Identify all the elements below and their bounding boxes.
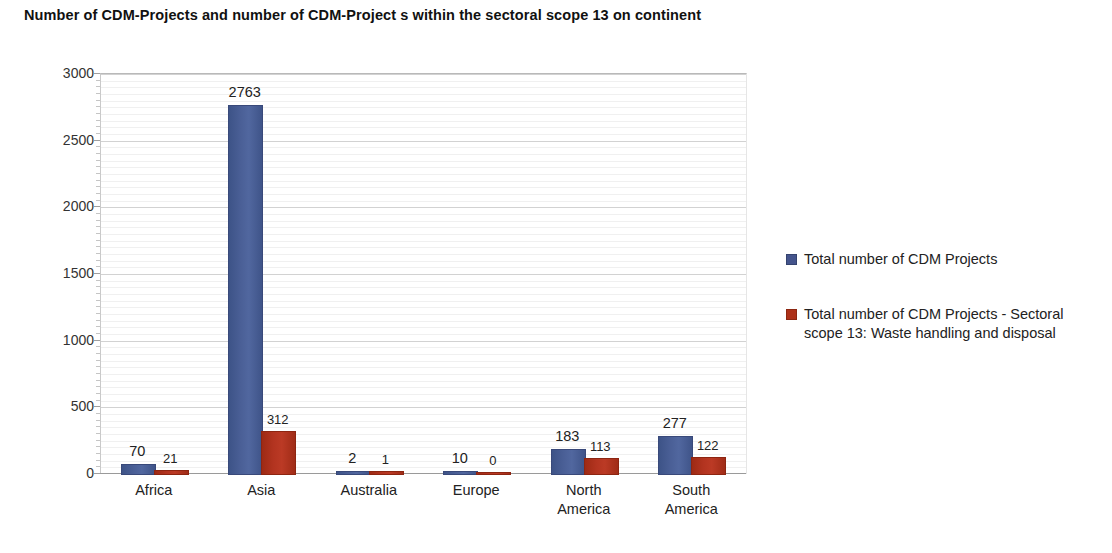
y-tick-mark-major bbox=[94, 473, 100, 474]
gridline-minor bbox=[101, 301, 746, 302]
data-label-south-america-series-1: 277 bbox=[650, 415, 699, 431]
gridline-minor bbox=[101, 241, 746, 242]
data-label-africa-series-2: 21 bbox=[146, 451, 195, 466]
gridline-minor bbox=[101, 127, 746, 128]
y-tick-mark-minor bbox=[96, 440, 100, 441]
gridline-minor bbox=[101, 174, 746, 175]
y-tick-mark-major bbox=[94, 73, 100, 74]
gridline-minor bbox=[101, 447, 746, 448]
gridline-minor bbox=[101, 214, 746, 215]
gridline-minor bbox=[101, 267, 746, 268]
y-tick-mark-minor bbox=[96, 346, 100, 347]
gridline-minor bbox=[101, 107, 746, 108]
y-tick-mark-minor bbox=[96, 360, 100, 361]
y-tick-mark-minor bbox=[96, 400, 100, 401]
x-axis-tick-label: SouthAmerica bbox=[638, 481, 746, 519]
y-tick-mark-minor bbox=[96, 426, 100, 427]
y-tick-mark-minor bbox=[96, 160, 100, 161]
y-tick-mark-minor bbox=[96, 280, 100, 281]
legend-item-series-1[interactable]: Total number of CDM Projects bbox=[786, 250, 1096, 269]
y-tick-mark-minor bbox=[96, 86, 100, 87]
gridline-minor bbox=[101, 134, 746, 135]
legend-item-series-2[interactable]: Total number of CDM Projects - Sectoral … bbox=[786, 305, 1096, 343]
gridline-minor bbox=[101, 367, 746, 368]
gridline-major bbox=[101, 274, 746, 275]
y-tick-mark-minor bbox=[96, 286, 100, 287]
y-tick-mark-minor bbox=[96, 326, 100, 327]
gridline-minor bbox=[101, 147, 746, 148]
bar-africa-series-2[interactable] bbox=[154, 470, 189, 475]
chart-legend: Total number of CDM ProjectsTotal number… bbox=[786, 250, 1096, 379]
x-axis-tick-label: NorthAmerica bbox=[530, 481, 638, 519]
bar-north-america-series-2[interactable] bbox=[584, 458, 619, 475]
gridline-minor bbox=[101, 307, 746, 308]
y-tick-mark-minor bbox=[96, 293, 100, 294]
y-axis-tick-label: 2500 bbox=[22, 132, 94, 148]
bar-europe-series-2[interactable] bbox=[476, 472, 511, 476]
gridline-minor bbox=[101, 161, 746, 162]
gridline-minor bbox=[101, 101, 746, 102]
bar-australia-series-2[interactable] bbox=[369, 471, 404, 475]
y-tick-mark-minor bbox=[96, 313, 100, 314]
gridline-minor bbox=[101, 254, 746, 255]
bar-australia-series-1[interactable] bbox=[336, 471, 371, 475]
y-tick-mark-minor bbox=[96, 266, 100, 267]
y-tick-mark-minor bbox=[96, 300, 100, 301]
gridline-minor bbox=[101, 294, 746, 295]
bar-asia-series-2[interactable] bbox=[261, 431, 296, 475]
y-tick-mark-minor bbox=[96, 253, 100, 254]
y-tick-mark-minor bbox=[96, 126, 100, 127]
gridline-major bbox=[101, 341, 746, 342]
y-tick-mark-minor bbox=[96, 373, 100, 374]
y-axis: 050010001500200025003000 bbox=[14, 0, 94, 553]
y-tick-mark-minor bbox=[96, 460, 100, 461]
y-axis-tick-label: 1000 bbox=[22, 332, 94, 348]
y-tick-mark-minor bbox=[96, 106, 100, 107]
y-tick-mark-minor bbox=[96, 93, 100, 94]
gridline-minor bbox=[101, 81, 746, 82]
y-tick-mark-minor bbox=[96, 306, 100, 307]
gridline-major bbox=[101, 74, 746, 75]
y-tick-mark-minor bbox=[96, 193, 100, 194]
y-axis-tick-label: 3000 bbox=[22, 65, 94, 81]
y-tick-mark-minor bbox=[96, 200, 100, 201]
y-tick-mark-major bbox=[94, 273, 100, 274]
legend-item-label: Total number of CDM Projects bbox=[804, 250, 997, 269]
chart-title: Number of CDM-Projects and number of CDM… bbox=[24, 6, 744, 25]
y-tick-mark-minor bbox=[96, 386, 100, 387]
gridline-major bbox=[101, 141, 746, 142]
gridline-minor bbox=[101, 354, 746, 355]
y-tick-mark-minor bbox=[96, 466, 100, 467]
y-tick-mark-minor bbox=[96, 233, 100, 234]
bar-south-america-series-2[interactable] bbox=[691, 457, 726, 475]
gridline-minor bbox=[101, 187, 746, 188]
y-tick-mark-minor bbox=[96, 246, 100, 247]
y-tick-mark-minor bbox=[96, 413, 100, 414]
gridline-major bbox=[101, 207, 746, 208]
category-axis-line bbox=[100, 473, 746, 474]
y-tick-mark-major bbox=[94, 406, 100, 407]
gridline-minor bbox=[101, 221, 746, 222]
gridline-minor bbox=[101, 227, 746, 228]
gridline-minor bbox=[101, 121, 746, 122]
y-tick-mark-minor bbox=[96, 226, 100, 227]
gridline-minor bbox=[101, 421, 746, 422]
gridline-minor bbox=[101, 374, 746, 375]
gridline-minor bbox=[101, 114, 746, 115]
gridline-minor bbox=[101, 387, 746, 388]
gridline-minor bbox=[101, 201, 746, 202]
gridline-minor bbox=[101, 247, 746, 248]
data-label-europe-series-2: 0 bbox=[468, 453, 517, 468]
y-tick-mark-minor bbox=[96, 120, 100, 121]
y-tick-mark-minor bbox=[96, 180, 100, 181]
y-tick-mark-minor bbox=[96, 220, 100, 221]
y-axis-tick-label: 1500 bbox=[22, 265, 94, 281]
gridline-minor bbox=[101, 287, 746, 288]
y-tick-mark-minor bbox=[96, 213, 100, 214]
gridline-major bbox=[101, 407, 746, 408]
gridline-minor bbox=[101, 461, 746, 462]
y-axis-tick-label: 0 bbox=[22, 465, 94, 481]
gridline-minor bbox=[101, 401, 746, 402]
bar-europe-series-1[interactable] bbox=[443, 471, 478, 475]
legend-item-label: Total number of CDM Projects - Sectoral … bbox=[804, 305, 1079, 343]
